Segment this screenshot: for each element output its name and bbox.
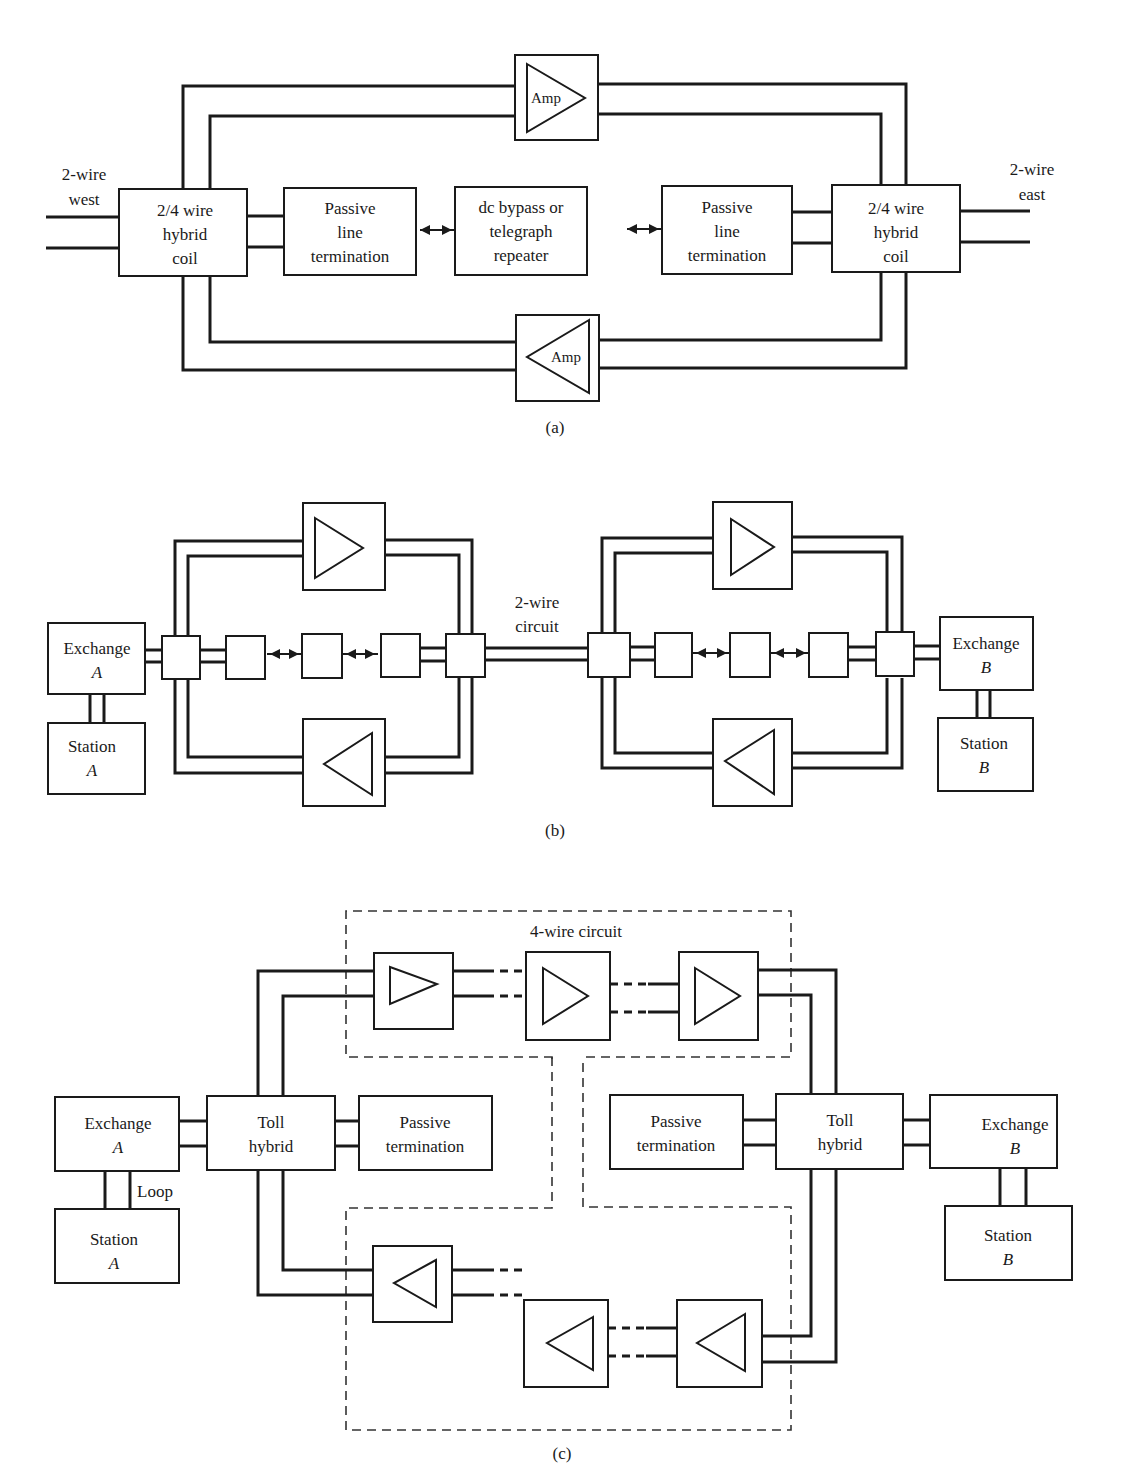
four-wire-circuit-label: 4-wire circuit xyxy=(530,922,622,941)
svg-text:line: line xyxy=(337,223,363,242)
amp-box xyxy=(524,1300,608,1387)
svg-text:Toll: Toll xyxy=(826,1111,853,1130)
two-wire-circuit-label-1: 2-wire xyxy=(515,593,559,612)
svg-text:Passive: Passive xyxy=(702,198,753,217)
svg-text:Station: Station xyxy=(960,734,1009,753)
svg-text:line: line xyxy=(714,222,740,241)
amp-box xyxy=(679,952,758,1040)
hybrid-box xyxy=(162,636,200,679)
svg-text:A: A xyxy=(112,1138,124,1157)
hybrid-box xyxy=(446,634,485,677)
bidirectional-arrow-icon xyxy=(420,225,455,235)
panel-c: 4-wire circuit Exchange A Loop Station A… xyxy=(55,911,1072,1463)
exchange-a xyxy=(48,623,145,694)
svg-text:Station: Station xyxy=(984,1226,1033,1245)
svg-text:hybrid: hybrid xyxy=(163,225,208,244)
amp-box xyxy=(374,953,453,1029)
bidirectional-arrow-icon xyxy=(693,648,730,658)
svg-text:2/4 wire: 2/4 wire xyxy=(868,199,924,218)
termination-box xyxy=(655,633,692,677)
termination-box xyxy=(381,634,420,677)
telephone-circuit-figure: Amp Amp 2-wire west 2/4 wire hybrid coil… xyxy=(0,0,1125,1482)
svg-text:termination: termination xyxy=(386,1137,465,1156)
amp-box xyxy=(713,719,792,806)
svg-text:termination: termination xyxy=(311,247,390,266)
svg-text:termination: termination xyxy=(637,1136,716,1155)
svg-text:Passive: Passive xyxy=(400,1113,451,1132)
station-b xyxy=(938,718,1033,791)
passive-termination-b xyxy=(610,1095,743,1169)
hybrid-box xyxy=(876,632,914,676)
panel-a: Amp Amp 2-wire west 2/4 wire hybrid coil… xyxy=(46,55,1054,437)
east-label-line1: 2-wire xyxy=(1010,160,1054,179)
svg-text:hybrid: hybrid xyxy=(874,223,919,242)
svg-text:coil: coil xyxy=(172,249,198,268)
caption-c: (c) xyxy=(553,1444,572,1463)
bidirectional-arrow-icon xyxy=(771,648,809,658)
repeater-box xyxy=(730,633,770,677)
svg-text:B: B xyxy=(1010,1139,1021,1158)
svg-text:B: B xyxy=(981,658,992,677)
amp-label-bottom: Amp xyxy=(551,349,581,365)
amp-box xyxy=(526,952,610,1040)
station-a xyxy=(48,723,145,794)
amp-box xyxy=(373,1246,452,1322)
bidirectional-arrow-icon xyxy=(343,649,378,659)
svg-text:Passive: Passive xyxy=(325,199,376,218)
amp-box xyxy=(713,502,792,589)
termination-box xyxy=(226,636,265,679)
svg-text:B: B xyxy=(979,758,990,777)
toll-hybrid-b xyxy=(776,1094,903,1169)
two-wire-circuit-label-2: circuit xyxy=(515,617,559,636)
svg-text:repeater: repeater xyxy=(494,246,549,265)
west-label-line1: 2-wire xyxy=(62,165,106,184)
svg-text:hybrid: hybrid xyxy=(818,1135,863,1154)
svg-text:Exchange: Exchange xyxy=(63,639,130,658)
hybrid-box xyxy=(588,633,630,677)
svg-text:coil: coil xyxy=(883,247,909,266)
passive-termination-a xyxy=(359,1096,492,1170)
svg-text:Toll: Toll xyxy=(257,1113,284,1132)
svg-text:B: B xyxy=(1003,1250,1014,1269)
exchange-b xyxy=(940,617,1033,690)
amp-box xyxy=(677,1300,762,1387)
svg-text:dc bypass or: dc bypass or xyxy=(479,198,564,217)
svg-text:Exchange: Exchange xyxy=(84,1114,151,1133)
termination-box xyxy=(809,633,848,677)
svg-text:Exchange: Exchange xyxy=(952,634,1019,653)
svg-text:termination: termination xyxy=(688,246,767,265)
toll-hybrid-a xyxy=(207,1096,335,1170)
svg-text:hybrid: hybrid xyxy=(249,1137,294,1156)
svg-text:Passive: Passive xyxy=(651,1112,702,1131)
svg-text:A: A xyxy=(86,761,98,780)
caption-a: (a) xyxy=(546,418,565,437)
svg-text:2/4 wire: 2/4 wire xyxy=(157,201,213,220)
bidirectional-arrow-icon xyxy=(267,649,302,659)
svg-text:Station: Station xyxy=(68,737,117,756)
svg-text:A: A xyxy=(108,1254,120,1273)
amp-label-top: Amp xyxy=(531,90,561,106)
loop-label: Loop xyxy=(137,1182,173,1201)
east-label-line2: east xyxy=(1019,185,1046,204)
caption-b: (b) xyxy=(545,821,565,840)
svg-text:telegraph: telegraph xyxy=(489,222,553,241)
svg-text:A: A xyxy=(91,663,103,682)
repeater-box xyxy=(302,634,342,678)
svg-text:Station: Station xyxy=(90,1230,139,1249)
west-label-line2: west xyxy=(68,190,99,209)
exchange-a xyxy=(55,1097,179,1171)
panel-b: Exchange A Station A xyxy=(48,502,1033,840)
svg-text:Exchange: Exchange xyxy=(981,1115,1048,1134)
bidirectional-arrow-icon xyxy=(627,224,662,234)
